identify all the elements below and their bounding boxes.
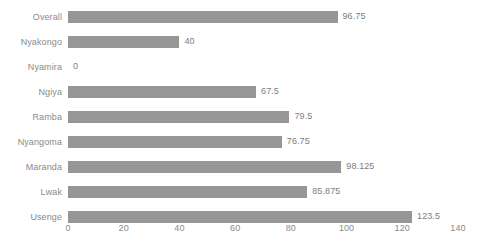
x-axis-tick-label: 40	[159, 222, 199, 234]
bar-value-label: 98.125	[346, 160, 374, 173]
bar	[68, 136, 282, 148]
bar-row: Ramba79.5	[0, 111, 481, 136]
category-label: Ramba	[0, 111, 62, 123]
bar-row: Nyangoma76.75	[0, 136, 481, 161]
bar-chart: Overall96.75Nyakongo40Nyamira0Ngiya67.5R…	[0, 0, 481, 251]
x-axis-tick-label: 80	[271, 222, 311, 234]
bar	[68, 36, 179, 48]
bar-value-label: 85.875	[312, 185, 340, 198]
x-axis-tick-label: 140	[438, 222, 478, 234]
x-axis-tick-label: 120	[382, 222, 422, 234]
x-axis-tick-label: 100	[327, 222, 367, 234]
bar-row: Maranda98.125	[0, 161, 481, 186]
category-label: Lwak	[0, 186, 62, 198]
x-axis-tick-label: 60	[215, 222, 255, 234]
bar-fill	[68, 186, 307, 198]
x-axis-tick-label: 20	[104, 222, 144, 234]
bar-value-label: 67.5	[261, 85, 279, 98]
category-label: Nyakongo	[0, 36, 62, 48]
category-label: Overall	[0, 11, 62, 23]
bar-fill	[68, 161, 341, 173]
bar-value-label: 96.75	[343, 10, 366, 23]
bar-row: Ngiya67.5	[0, 86, 481, 111]
bar-fill	[68, 36, 179, 48]
plot-area: Overall96.75Nyakongo40Nyamira0Ngiya67.5R…	[0, 0, 481, 251]
bar-fill	[68, 111, 289, 123]
bar-value-label: 0	[73, 60, 78, 73]
category-label: Nyangoma	[0, 136, 62, 148]
x-axis: 020406080100120140	[0, 222, 481, 238]
bar-value-label: 79.5	[294, 110, 312, 123]
bar-fill	[68, 86, 256, 98]
bar	[68, 86, 256, 98]
bar-value-label: 76.75	[287, 135, 310, 148]
bar-row: Nyamira0	[0, 61, 481, 86]
bar-row: Lwak85.875	[0, 186, 481, 211]
bar-fill	[68, 136, 282, 148]
bar	[68, 186, 307, 198]
bar	[68, 161, 341, 173]
category-label: Nyamira	[0, 61, 62, 73]
category-label: Maranda	[0, 161, 62, 173]
category-label: Ngiya	[0, 86, 62, 98]
bar-row: Nyakongo40	[0, 36, 481, 61]
bar-row: Overall96.75	[0, 11, 481, 36]
bar	[68, 11, 338, 23]
x-axis-tick-label: 0	[48, 222, 88, 234]
bar	[68, 111, 289, 123]
bar-fill	[68, 11, 338, 23]
bar-value-label: 40	[184, 35, 194, 48]
